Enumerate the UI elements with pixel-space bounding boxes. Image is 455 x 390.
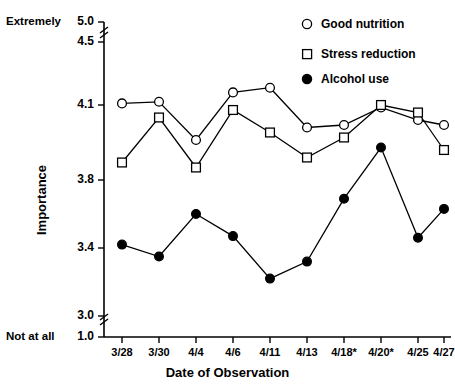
chart-axes	[98, 22, 451, 343]
y-tick-label-3-0: 3.0	[62, 309, 94, 321]
x-axis-ticks	[122, 337, 444, 343]
data-point-good-nutrition-0	[118, 99, 127, 108]
data-point-stress-reduction-4	[266, 128, 275, 137]
data-point-stress-reduction-0	[118, 158, 127, 167]
x-tick-label-9: 4/27	[422, 346, 455, 358]
y-tick-label-3-8: 3.8	[62, 173, 94, 185]
series-markers-stress-reduction	[118, 101, 449, 172]
legend-label-good-nutrition: Good nutrition	[321, 18, 404, 30]
data-point-stress-reduction-7	[377, 101, 386, 110]
data-point-good-nutrition-1	[155, 97, 164, 106]
data-point-alcohol-use-4	[266, 274, 275, 283]
series-markers-alcohol-use	[118, 143, 449, 283]
y-axis-title: Importance	[36, 165, 48, 235]
y-axis-ticks	[98, 22, 104, 337]
data-point-alcohol-use-3	[229, 232, 238, 241]
legend-label-stress-reduction: Stress reduction	[321, 48, 416, 60]
x-axis-title: Date of Observation	[0, 367, 455, 379]
data-point-good-nutrition-2	[192, 136, 201, 145]
legend-marker-open-square	[303, 50, 312, 59]
data-point-good-nutrition-6	[340, 121, 349, 130]
scale-anchor-top: Extremely	[6, 15, 61, 27]
data-series-layer	[118, 83, 449, 283]
legend-marker-filled-circle	[302, 74, 311, 83]
scale-anchor-bottom: Not at all	[6, 330, 55, 342]
data-point-stress-reduction-9	[440, 146, 449, 155]
legend-label-alcohol-use: Alcohol use	[321, 73, 389, 85]
data-point-alcohol-use-5	[303, 257, 312, 266]
data-point-stress-reduction-8	[414, 108, 423, 117]
y-tick-label-1-0: 1.0	[62, 330, 94, 342]
data-point-alcohol-use-6	[340, 194, 349, 203]
data-point-alcohol-use-9	[440, 205, 449, 214]
legend-markers	[302, 19, 311, 83]
data-point-stress-reduction-1	[155, 113, 164, 122]
y-tick-label-4-1: 4.1	[62, 98, 94, 110]
series-line-alcohol-use	[122, 148, 444, 279]
data-point-alcohol-use-7	[377, 143, 386, 152]
data-point-good-nutrition-9	[440, 121, 449, 130]
data-point-stress-reduction-6	[340, 133, 349, 142]
data-point-alcohol-use-1	[155, 252, 164, 261]
data-point-good-nutrition-4	[266, 83, 275, 92]
y-tick-label-5-0: 5.0	[62, 15, 94, 27]
y-tick-label-4-5: 4.5	[62, 35, 94, 47]
data-point-good-nutrition-3	[229, 88, 238, 97]
data-point-alcohol-use-8	[414, 233, 423, 242]
legend-marker-open-circle	[302, 19, 311, 28]
y-tick-label-3-4: 3.4	[62, 241, 94, 253]
data-point-alcohol-use-2	[192, 210, 201, 219]
data-point-good-nutrition-5	[303, 123, 312, 132]
data-point-alcohol-use-0	[118, 240, 127, 249]
chart-figure: 5.0 4.5 4.1 3.8 3.4 3.0 1.0 Extremely No…	[0, 0, 455, 390]
data-point-stress-reduction-3	[229, 106, 238, 115]
data-point-stress-reduction-2	[192, 163, 201, 172]
data-point-stress-reduction-5	[303, 153, 312, 162]
